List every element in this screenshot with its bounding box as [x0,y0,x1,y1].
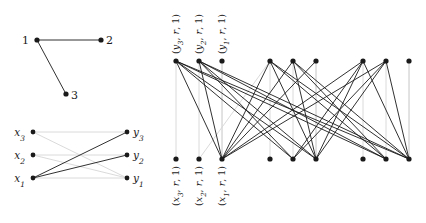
product-edge [316,61,386,159]
product-top-node-label: (y3, r, 1) [170,14,185,54]
product-node [406,58,411,63]
xy-right-node-label: y2 [132,149,144,166]
product-top-node-label: (y2, r, 1) [193,14,208,54]
product-edge [270,61,386,159]
xy-node [125,176,130,181]
product-edge [199,61,386,159]
xy-left-node-label: x3 [14,126,25,143]
product-node [313,58,318,63]
triangle-edge [37,40,66,94]
xy-right-node-label: y1 [132,172,144,189]
product-node [267,156,272,161]
product-edge [222,61,293,159]
product-bottom-node-label: (x1, r, 1) [216,166,231,206]
graph-canvas: 123x3x2x1y3y2y1(y3, r, 1)(y2, r, 1)(y1, … [0,0,426,223]
triangle-node-label: 2 [106,34,113,47]
product-bottom-node-label: (x3, r, 1) [170,166,185,206]
xy-node [125,153,130,158]
xy-node [31,130,36,135]
xy-node [31,176,36,181]
product-bottom-node-label: (x2, r, 1) [193,166,208,206]
xy-node [31,153,36,158]
product-node [219,156,224,161]
figure-root: 123x3x2x1y3y2y1(y3, r, 1)(y2, r, 1)(y1, … [0,0,426,223]
xy-right-node-label: y3 [132,126,144,143]
triangle-node [34,37,39,42]
product-node [219,58,224,63]
product-top-node-label: (y1, r, 1) [216,14,231,54]
triangle-node-label: 1 [22,34,29,47]
triangle-node [98,37,103,42]
product-edge [386,61,409,159]
triangle-node-label: 3 [71,89,78,102]
product-node [360,58,365,63]
product-node [290,156,295,161]
product-edge [222,61,316,159]
triangle-node [63,91,68,96]
product-node [290,58,295,63]
xy-left-node-label: x1 [14,172,25,189]
product-node [196,156,201,161]
product-node [196,58,201,63]
product-edge [176,61,386,159]
product-node [383,156,388,161]
product-edge [176,61,293,159]
product-node [267,58,272,63]
product-node [173,156,178,161]
product-node [406,156,411,161]
product-node [173,58,178,63]
product-node [360,156,365,161]
product-node [313,156,318,161]
xy-left-node-label: x2 [14,149,25,166]
xy-node [125,130,130,135]
product-node [383,58,388,63]
